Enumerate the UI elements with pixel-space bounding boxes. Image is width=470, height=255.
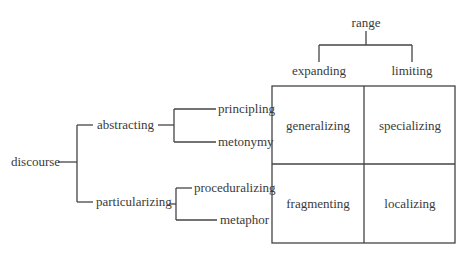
particularizing-label: particularizing [96,195,172,209]
cell-fragmenting: fragmenting [286,197,350,211]
principling-label: principling [218,102,275,116]
limiting-label: limiting [391,64,432,78]
proceduralizing-label: proceduralizing [194,181,276,195]
expanding-label: expanding [292,64,346,78]
metonymy-label: metonymy [218,135,274,149]
cell-localizing: localizing [384,197,435,211]
range-label: range [352,16,381,30]
metaphor-label: metaphor [220,213,269,227]
diagram-canvas: range expanding limiting discourse abstr… [0,0,470,255]
cell-specializing: specializing [379,119,441,133]
discourse-label: discourse [11,155,60,169]
cell-generalizing: generalizing [286,119,350,133]
abstracting-label: abstracting [97,118,154,132]
